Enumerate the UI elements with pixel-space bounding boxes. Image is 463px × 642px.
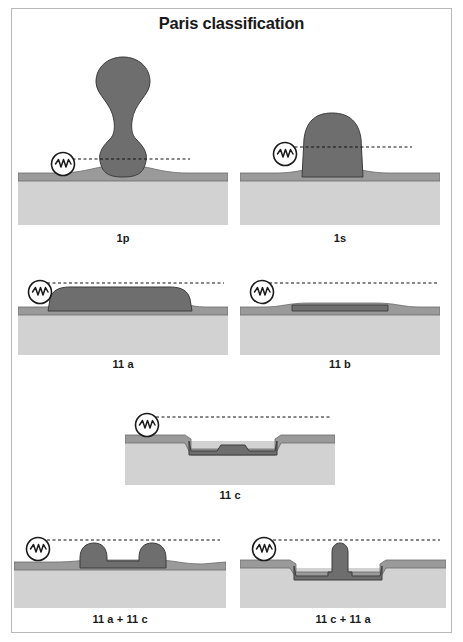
closed-biopsy-forceps-icon — [29, 281, 52, 304]
caption-1p: 1p — [18, 232, 228, 244]
panel-11c — [125, 405, 335, 485]
panel-11a-illustration — [18, 265, 228, 355]
caption-11c-plus-11a: 11 c + 11 a — [240, 613, 446, 625]
flat-elevated-lesion — [48, 287, 192, 311]
sessile-lesion — [302, 113, 363, 177]
submucosa-layer — [18, 311, 228, 355]
caption-11c: 11 c — [125, 489, 335, 501]
panel-11a-plus-11c-illustration — [14, 528, 226, 608]
closed-biopsy-forceps-icon — [52, 153, 75, 176]
panel-11b — [240, 265, 440, 355]
caption-11a: 11 a — [18, 358, 228, 370]
panel-1p — [18, 55, 228, 225]
caption-11b: 11 b — [240, 358, 440, 370]
panel-1s — [240, 55, 440, 225]
panel-1p-illustration — [18, 55, 228, 225]
closed-biopsy-forceps-icon — [136, 414, 159, 437]
panel-11c-plus-11a — [240, 528, 446, 608]
caption-11a-plus-11c: 11 a + 11 c — [14, 613, 226, 625]
panel-11c-plus-11a-illustration — [240, 528, 446, 608]
flat-lesion — [292, 305, 388, 311]
figure-title: Paris classification — [0, 14, 463, 33]
figure-root: Paris classification 1p — [0, 0, 463, 642]
panel-1s-illustration — [240, 55, 440, 225]
elevated-with-depression-lesion — [80, 543, 166, 568]
submucosa-layer — [240, 177, 440, 225]
submucosa-layer — [240, 311, 440, 355]
panel-11a-plus-11c — [14, 528, 226, 608]
panel-11c-illustration — [125, 405, 335, 485]
closed-biopsy-forceps-icon — [27, 538, 50, 561]
caption-1s: 1s — [240, 232, 440, 244]
panel-11b-illustration — [240, 265, 440, 355]
closed-biopsy-forceps-icon — [253, 538, 276, 561]
closed-biopsy-forceps-icon — [251, 281, 274, 304]
closed-biopsy-forceps-icon — [274, 143, 297, 166]
panel-11a — [18, 265, 228, 355]
submucosa-layer — [18, 177, 228, 225]
submucosa-layer — [14, 568, 226, 608]
